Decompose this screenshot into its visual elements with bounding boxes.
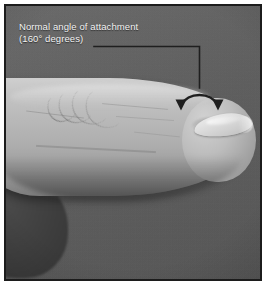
- clinical-photograph: [6, 6, 260, 279]
- figure-frame: Normal angle of attachment (160° degrees…: [4, 4, 262, 281]
